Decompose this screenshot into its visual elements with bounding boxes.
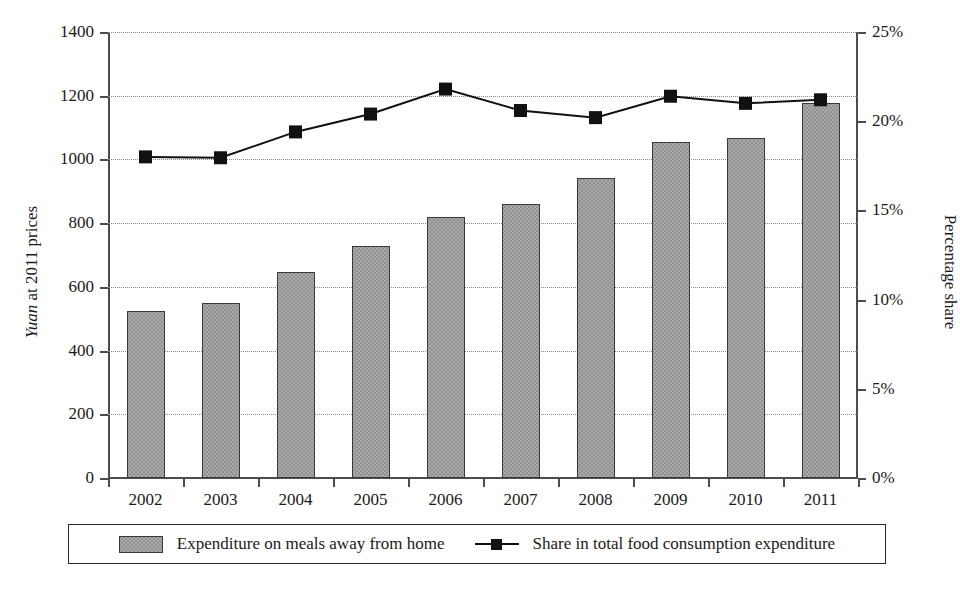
y-axis-right-tick-label: 0% [872,468,895,488]
y-axis-right-tick-label: 10% [872,290,903,310]
y-axis-left-tick [100,223,108,225]
y-axis-left-tick-label: 1000 [60,149,94,169]
y-axis-right-tick-label: 15% [872,200,903,220]
y-axis-right-tick [858,300,866,302]
line-series-marker [289,125,302,138]
legend: Expenditure on meals away from home Shar… [68,524,886,564]
x-axis-tick [558,479,560,487]
bar [202,303,240,478]
y-axis-right-tick-label: 5% [872,379,895,399]
x-axis-tick [708,479,710,487]
y-axis-left-title-rest: at 2011 prices [22,206,41,305]
bar [127,311,165,478]
y-axis-right-tick-label: 25% [872,22,903,42]
line-marker-swatch-icon [475,537,519,551]
line-series-marker [739,97,752,110]
x-axis-tick [783,479,785,487]
y-axis-left-title-italic: Yuan [22,305,41,338]
x-axis-tick-label: 2006 [429,490,463,510]
legend-item-bar-label: Expenditure on meals away from home [177,534,445,554]
bar [652,142,690,478]
bar [427,217,465,478]
x-axis-tick [258,479,260,487]
line-series-marker [514,104,527,117]
x-axis-tick-label: 2003 [204,490,238,510]
x-axis-tick [633,479,635,487]
x-axis-tick-label: 2004 [279,490,313,510]
bar [577,178,615,478]
bar [352,246,390,478]
y-axis-right-tick-label: 20% [872,111,903,131]
y-axis-left-tick [100,32,108,34]
y-axis-left-line [108,32,110,478]
x-axis-tick [108,479,110,487]
line-series-marker [214,151,227,164]
y-axis-left-tick [100,96,108,98]
line-series-marker [364,108,377,121]
line-series-marker [439,83,452,96]
line-series-marker [589,111,602,124]
y-axis-left-tick-label: 1200 [60,86,94,106]
y-axis-left-title: Yuan at 2011 prices [22,122,42,422]
bar [802,103,840,478]
plot-area: 0200400600800100012001400 0%5%10%15%20%2… [108,32,858,478]
y-axis-left-tick-label: 600 [69,277,95,297]
y-axis-right-tick [858,121,866,123]
gridline [108,96,858,97]
line-series-marker [139,150,152,163]
legend-item-bar: Expenditure on meals away from home [119,534,445,554]
x-axis-tick [483,479,485,487]
legend-item-line-label: Share in total food consumption expendit… [533,534,836,554]
y-axis-left-tick [100,159,108,161]
y-axis-left-tick [100,478,108,480]
x-axis-tick-label: 2008 [579,490,613,510]
legend-item-line: Share in total food consumption expendit… [445,534,836,554]
line-series-path [146,89,821,158]
x-axis-tick-label: 2007 [504,490,538,510]
x-axis-tick-label: 2011 [804,490,837,510]
y-axis-left-tick [100,287,108,289]
x-axis-tick [408,479,410,487]
x-axis-tick-label: 2009 [654,490,688,510]
y-axis-right-line [856,32,858,478]
bar-swatch-icon [119,536,163,553]
y-axis-left-tick-label: 400 [69,341,95,361]
y-axis-right-tick [858,32,866,34]
x-axis-tick [858,479,860,487]
y-axis-right-tick [858,210,866,212]
y-axis-left-tick [100,414,108,416]
x-axis-tick [183,479,185,487]
line-swatch-marker [491,539,502,550]
y-axis-left-tick-label: 800 [69,213,95,233]
y-axis-left-tick-label: 1400 [60,22,94,42]
bar [277,272,315,478]
y-axis-left-tick-label: 0 [86,468,95,488]
y-axis-left-tick [100,351,108,353]
bar [502,204,540,478]
y-axis-right-tick [858,389,866,391]
x-axis-tick-label: 2010 [729,490,763,510]
x-axis-tick [333,479,335,487]
gridline [108,32,858,33]
bar [727,138,765,478]
y-axis-left-tick-label: 200 [69,404,95,424]
x-axis-tick-label: 2005 [354,490,388,510]
x-axis-tick-label: 2002 [129,490,163,510]
y-axis-right-title: Percentage share [940,122,960,422]
